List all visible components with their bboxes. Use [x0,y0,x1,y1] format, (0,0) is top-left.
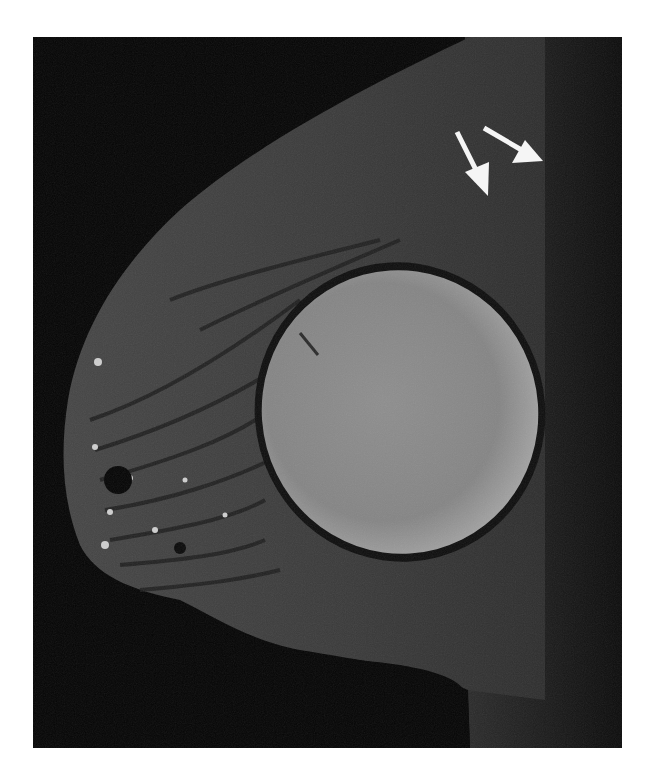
mri-image [33,37,622,748]
noise-overlay [33,37,622,748]
mri-image-frame [33,37,622,748]
